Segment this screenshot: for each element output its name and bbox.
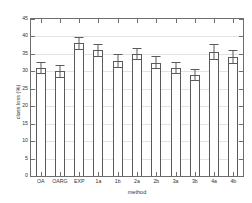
x-axis-tick-label: 2a bbox=[134, 179, 140, 184]
gridline bbox=[31, 36, 243, 37]
error-bar bbox=[208, 44, 220, 59]
y-axis-tick-right bbox=[239, 106, 243, 107]
error-bar-cap-bottom bbox=[75, 49, 84, 50]
x-axis-tick-label: 2b bbox=[153, 179, 159, 184]
x-axis-tick bbox=[156, 172, 157, 176]
error-bar bbox=[92, 44, 104, 57]
y-axis-tick bbox=[31, 159, 35, 160]
bar bbox=[228, 57, 238, 176]
error-bar-cap-bottom bbox=[229, 63, 238, 64]
error-bar bbox=[150, 56, 162, 69]
x-axis-tick-top bbox=[41, 19, 42, 23]
error-bar-cap-bottom bbox=[210, 59, 219, 60]
x-axis-tick-label: 4b bbox=[230, 179, 236, 184]
bar bbox=[74, 43, 84, 176]
error-bar bbox=[227, 50, 239, 64]
x-axis-tick-top bbox=[79, 19, 80, 23]
bar bbox=[209, 52, 219, 176]
error-bar-cap-bottom bbox=[94, 56, 103, 57]
error-bar-cap-bottom bbox=[36, 73, 45, 74]
error-bar bbox=[35, 62, 47, 75]
bar bbox=[190, 75, 200, 176]
error-bar-stem bbox=[117, 54, 118, 68]
error-bar-cap-top bbox=[94, 44, 103, 45]
x-axis-tick-label: 3a bbox=[173, 179, 179, 184]
x-axis-tick-label: 1a bbox=[96, 179, 102, 184]
y-axis-tick-right bbox=[239, 54, 243, 55]
error-bar-cap-top bbox=[229, 50, 238, 51]
x-axis-tick bbox=[233, 172, 234, 176]
plot-inner: 051015202530354045OAOARGEXP1a1b2a2b3a3b4… bbox=[31, 19, 243, 176]
error-bar-cap-top bbox=[55, 65, 64, 66]
x-axis-tick-label: 4a bbox=[211, 179, 217, 184]
bar bbox=[36, 68, 46, 176]
error-bar-cap-top bbox=[113, 54, 122, 55]
x-axis-tick bbox=[195, 172, 196, 176]
y-axis-tick bbox=[31, 19, 35, 20]
error-bar-cap-top bbox=[75, 37, 84, 38]
bar bbox=[151, 63, 161, 176]
error-bar-cap-bottom bbox=[113, 67, 122, 68]
y-axis-tick bbox=[31, 54, 35, 55]
y-axis-tick bbox=[31, 124, 35, 125]
bar bbox=[113, 61, 123, 176]
x-axis-tick-label: OARG bbox=[52, 179, 67, 184]
y-axis-tick-label: 0 bbox=[25, 173, 28, 178]
x-axis-tick-label: OA bbox=[37, 179, 45, 184]
x-axis-tick-top bbox=[118, 19, 119, 23]
error-bar-cap-top bbox=[152, 56, 161, 57]
x-axis-tick-label: EXP bbox=[74, 179, 84, 184]
plot-area: 051015202530354045OAOARGEXP1a1b2a2b3a3b4… bbox=[30, 18, 244, 177]
error-bar-cap-top bbox=[171, 62, 180, 63]
x-axis-tick-top bbox=[156, 19, 157, 23]
x-axis-tick-top bbox=[60, 19, 61, 23]
error-bar-cap-top bbox=[210, 44, 219, 45]
y-axis-tick-right bbox=[239, 124, 243, 125]
y-axis-tick-right bbox=[239, 176, 243, 177]
y-axis-tick-label: 25 bbox=[22, 86, 28, 91]
error-bar-cap-bottom bbox=[133, 59, 142, 60]
y-axis-tick-label: 30 bbox=[22, 69, 28, 74]
y-axis-tick-label: 10 bbox=[22, 139, 28, 144]
error-bar-stem bbox=[214, 44, 215, 59]
y-axis-tick-label: 35 bbox=[22, 51, 28, 56]
y-axis-tick bbox=[31, 141, 35, 142]
error-bar-stem bbox=[233, 50, 234, 64]
error-bar-cap-bottom bbox=[171, 73, 180, 74]
x-axis-tick-top bbox=[195, 19, 196, 23]
x-axis-tick-top bbox=[176, 19, 177, 23]
x-axis-tick bbox=[137, 172, 138, 176]
bar-chart-figure: class loss (%) method 051015202530354045… bbox=[0, 0, 252, 203]
y-axis-tick-right bbox=[239, 89, 243, 90]
x-axis-tick bbox=[176, 172, 177, 176]
y-axis-title: class loss (%) bbox=[16, 84, 22, 119]
bar bbox=[132, 54, 142, 176]
bar bbox=[93, 50, 103, 176]
x-axis-tick-top bbox=[214, 19, 215, 23]
y-axis-tick-label: 15 bbox=[22, 121, 28, 126]
error-bar-cap-bottom bbox=[55, 77, 64, 78]
y-axis-tick-right bbox=[239, 36, 243, 37]
x-axis-title: method bbox=[128, 190, 147, 196]
x-axis-tick bbox=[214, 172, 215, 176]
error-bar bbox=[189, 69, 201, 82]
error-bar bbox=[73, 37, 85, 50]
x-axis-tick-label: 1b bbox=[115, 179, 121, 184]
error-bar bbox=[131, 48, 143, 61]
error-bar-cap-bottom bbox=[152, 68, 161, 69]
y-axis-tick-label: 40 bbox=[22, 34, 28, 39]
x-axis-tick bbox=[118, 172, 119, 176]
y-axis-tick bbox=[31, 106, 35, 107]
bar bbox=[55, 71, 65, 176]
y-axis-tick-right bbox=[239, 71, 243, 72]
x-axis-tick bbox=[98, 172, 99, 176]
x-axis-tick-top bbox=[233, 19, 234, 23]
error-bar-cap-top bbox=[190, 69, 199, 70]
error-bar bbox=[112, 54, 124, 68]
x-axis-tick bbox=[60, 172, 61, 176]
y-axis-tick-right bbox=[239, 159, 243, 160]
error-bar-cap-top bbox=[133, 48, 142, 49]
x-axis-tick bbox=[41, 172, 42, 176]
bar bbox=[171, 68, 181, 176]
y-axis-tick bbox=[31, 176, 35, 177]
